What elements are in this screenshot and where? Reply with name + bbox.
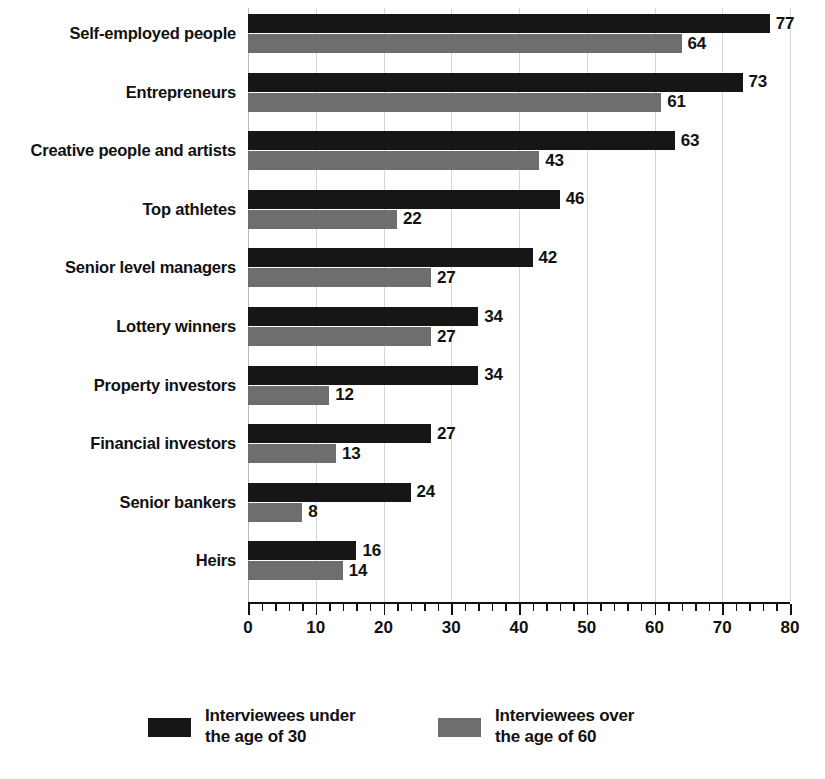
- bar-group: 3427: [248, 307, 790, 347]
- bar[interactable]: [248, 424, 431, 443]
- category-label: Financial investors: [4, 434, 236, 453]
- bar-value-label: 12: [335, 385, 354, 405]
- category-label: Heirs: [4, 551, 236, 570]
- bar[interactable]: [248, 34, 682, 53]
- x-tick: [668, 604, 670, 611]
- plot-area: 776473616343462242273427341227132481614: [248, 8, 790, 602]
- bar-group: 7764: [248, 14, 790, 54]
- bar-row: 64: [248, 34, 790, 53]
- x-tick: [600, 604, 602, 611]
- x-tick: [492, 604, 494, 611]
- bar-value-label: 61: [667, 92, 686, 112]
- bar-row: 73: [248, 73, 790, 92]
- bar-value-label: 16: [362, 541, 381, 561]
- bar-value-label: 27: [437, 327, 456, 347]
- bar-group: 4622: [248, 190, 790, 230]
- bar[interactable]: [248, 444, 336, 463]
- x-tick: [384, 604, 386, 615]
- legend-item[interactable]: Interviewees under the age of 30: [148, 706, 355, 747]
- x-tick: [289, 604, 291, 611]
- x-tick-label: 30: [442, 618, 461, 638]
- chart-legend: Interviewees under the age of 30Intervie…: [0, 706, 825, 779]
- bar-group: 1614: [248, 541, 790, 581]
- bar-row: 46: [248, 190, 790, 209]
- category-label: Lottery winners: [4, 317, 236, 336]
- x-tick: [641, 604, 643, 611]
- bar[interactable]: [248, 386, 329, 405]
- x-tick: [478, 604, 480, 611]
- x-tick: [627, 604, 629, 611]
- bar-group: 7361: [248, 73, 790, 113]
- bar-value-label: 46: [566, 189, 585, 209]
- bar-value-label: 24: [417, 482, 436, 502]
- bar-value-label: 64: [688, 34, 707, 54]
- bar[interactable]: [248, 131, 675, 150]
- bar-value-label: 42: [539, 248, 558, 268]
- bar[interactable]: [248, 307, 478, 326]
- x-tick: [709, 604, 711, 611]
- bar-row: 43: [248, 151, 790, 170]
- x-tick: [722, 604, 724, 615]
- bar[interactable]: [248, 541, 356, 560]
- x-tick: [695, 604, 697, 611]
- category-label: Top athletes: [4, 200, 236, 219]
- bar-value-label: 27: [437, 268, 456, 288]
- x-tick: [560, 604, 562, 611]
- bar-value-label: 14: [349, 561, 368, 581]
- gridline-80: [790, 8, 791, 602]
- x-tick-label: 70: [713, 618, 732, 638]
- x-tick: [736, 604, 738, 611]
- bar-value-label: 22: [403, 209, 422, 229]
- bar-row: 13: [248, 444, 790, 463]
- bar-row: 34: [248, 307, 790, 326]
- x-tick-label: 20: [374, 618, 393, 638]
- bar[interactable]: [248, 561, 343, 580]
- x-tick: [370, 604, 372, 611]
- category-label: Senior bankers: [4, 493, 236, 512]
- bar-group: 3412: [248, 366, 790, 406]
- x-tick-label: 0: [243, 618, 252, 638]
- bar[interactable]: [248, 483, 411, 502]
- bar[interactable]: [248, 268, 431, 287]
- category-label: Property investors: [4, 376, 236, 395]
- x-tick: [451, 604, 453, 615]
- x-tick: [533, 604, 535, 611]
- bar[interactable]: [248, 190, 560, 209]
- bar[interactable]: [248, 14, 770, 33]
- x-tick: [275, 604, 277, 611]
- x-tick: [411, 604, 413, 611]
- x-tick: [790, 604, 792, 615]
- bar[interactable]: [248, 210, 397, 229]
- x-tick: [248, 604, 250, 615]
- x-tick: [776, 604, 778, 611]
- bar[interactable]: [248, 366, 478, 385]
- bar-group: 4227: [248, 248, 790, 288]
- bar[interactable]: [248, 327, 431, 346]
- legend-label: Interviewees over the age of 60: [495, 706, 634, 747]
- bar-group: 2713: [248, 424, 790, 464]
- legend-swatch: [438, 718, 481, 737]
- x-tick: [587, 604, 589, 615]
- x-tick: [749, 604, 751, 611]
- bar[interactable]: [248, 248, 533, 267]
- bar-row: 34: [248, 366, 790, 385]
- bar[interactable]: [248, 151, 539, 170]
- bar[interactable]: [248, 503, 302, 522]
- x-tick: [397, 604, 399, 611]
- bar-row: 61: [248, 93, 790, 112]
- legend-item[interactable]: Interviewees over the age of 60: [438, 706, 634, 747]
- bar[interactable]: [248, 73, 743, 92]
- bar-row: 77: [248, 14, 790, 33]
- x-tick: [655, 604, 657, 615]
- x-tick-label: 60: [645, 618, 664, 638]
- x-tick-label: 50: [577, 618, 596, 638]
- grouped-bar-chart: Self-employed peopleEntrepreneursCreativ…: [0, 0, 825, 779]
- x-tick: [614, 604, 616, 611]
- x-tick: [573, 604, 575, 611]
- x-tick: [546, 604, 548, 611]
- x-tick-label: 40: [510, 618, 529, 638]
- x-tick-label: 10: [306, 618, 325, 638]
- bar[interactable]: [248, 93, 661, 112]
- bar-value-label: 8: [308, 502, 317, 522]
- bar-group: 6343: [248, 131, 790, 171]
